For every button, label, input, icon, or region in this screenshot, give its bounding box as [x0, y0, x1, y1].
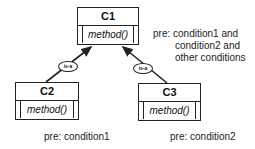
c2-precondition-note: pre: condition1 [44, 131, 110, 143]
class-c3-method: method() [143, 102, 196, 119]
class-c2-method: method() [20, 101, 74, 118]
class-c2: C2 method() [15, 82, 79, 120]
is-a-label-c2: is-a [58, 61, 78, 72]
note-line-3: other conditions [153, 52, 246, 64]
c1-precondition-note: pre: condition1 and condition2 and other… [153, 28, 246, 64]
is-a-label-c3: is-a [133, 63, 153, 74]
class-c1: C1 method() [77, 7, 139, 45]
c3-precondition-note: pre: condition2 [170, 131, 236, 143]
class-c2-name: C2 [16, 83, 78, 101]
class-c1-name: C1 [78, 8, 138, 26]
class-c3-name: C3 [139, 84, 200, 102]
note-line-2: condition2 and [153, 40, 246, 52]
note-line-1: pre: condition1 and [153, 28, 246, 40]
class-c3: C3 method() [138, 83, 201, 121]
class-c1-method: method() [82, 26, 134, 43]
